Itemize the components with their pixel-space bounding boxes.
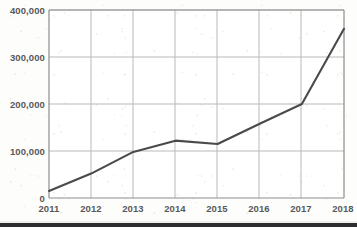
y-tick-label-0: 0 — [40, 193, 45, 204]
y-tick-label-200000: 200,000 — [10, 99, 45, 110]
x-tick-label-2014: 2014 — [164, 203, 186, 214]
chart-canvas: 400,000 300,000 200,000 100,000 0 2011 2… — [0, 0, 357, 227]
y-axis-tick-labels: 400,000 300,000 200,000 100,000 0 — [10, 5, 45, 204]
x-tick-label-2018: 2018 — [332, 203, 354, 214]
x-tick-label-2015: 2015 — [206, 203, 228, 214]
y-tick-label-100000: 100,000 — [10, 146, 45, 157]
x-tick-label-2013: 2013 — [122, 203, 144, 214]
line-chart-figure: 400,000 300,000 200,000 100,000 0 2011 2… — [0, 0, 357, 227]
x-axis-tick-labels: 2011 2012 2013 2014 2015 2016 2017 2018 — [38, 203, 353, 214]
x-tick-label-2012: 2012 — [80, 203, 102, 214]
scan-edge-bar — [0, 223, 357, 227]
y-tick-label-400000: 400,000 — [10, 5, 45, 16]
x-tick-label-2011: 2011 — [38, 203, 60, 214]
y-tick-label-300000: 300,000 — [10, 52, 45, 63]
x-tick-label-2017: 2017 — [290, 203, 312, 214]
x-tick-label-2016: 2016 — [248, 203, 270, 214]
